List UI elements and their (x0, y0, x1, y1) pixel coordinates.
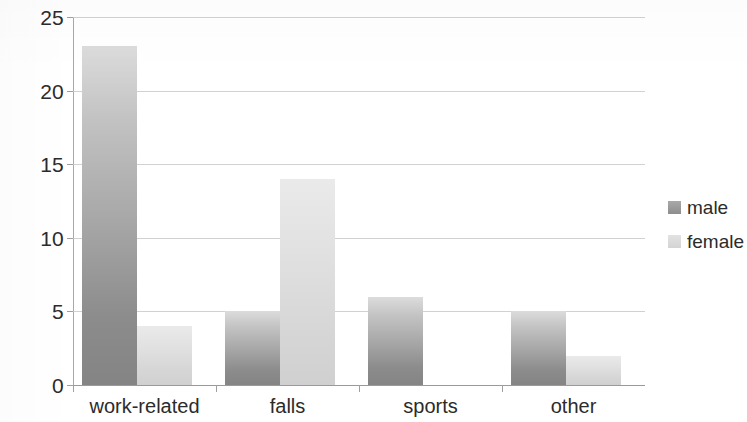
bar-falls-female (280, 179, 335, 385)
bar-work-related-female (137, 326, 192, 385)
y-tick-label-0: 0 (52, 375, 64, 396)
chart-legend: male female (668, 190, 747, 258)
legend-label-male: male (687, 198, 728, 217)
bar-work-related-male (82, 46, 137, 385)
y-tick-label-10: 10 (40, 227, 64, 248)
legend-label-female: female (687, 232, 744, 251)
gridline-15 (73, 164, 645, 165)
x-axis-separator-start (73, 385, 74, 392)
bar-other-female (566, 356, 621, 385)
bar-falls-male (225, 311, 280, 385)
x-axis-label-other: other (551, 395, 597, 417)
legend-swatch-male-icon (668, 201, 681, 214)
plot-area (73, 17, 645, 385)
x-axis-separator-1 (216, 385, 217, 392)
gridline-10 (73, 238, 645, 239)
legend-item-male[interactable]: male (668, 190, 747, 224)
y-tick-label-5: 5 (52, 301, 64, 322)
x-axis-label-work-related: work-related (89, 395, 199, 417)
bar-chart: 0510152025 work-relatedfallssportsother … (0, 0, 747, 422)
y-tick-label-15: 15 (40, 154, 64, 175)
legend-item-female[interactable]: female (668, 224, 747, 258)
y-tick-label-20: 20 (40, 80, 64, 101)
bar-other-male (511, 311, 566, 385)
x-axis-separator-3 (502, 385, 503, 392)
gridline-20 (73, 91, 645, 92)
x-axis-separator-2 (359, 385, 360, 392)
y-tick-label-25: 25 (40, 7, 64, 28)
x-axis-label-falls: falls (270, 395, 306, 417)
bar-sports-male (368, 297, 423, 385)
x-axis-label-sports: sports (403, 395, 457, 417)
legend-swatch-female-icon (668, 235, 681, 248)
gridline-25 (73, 17, 645, 18)
